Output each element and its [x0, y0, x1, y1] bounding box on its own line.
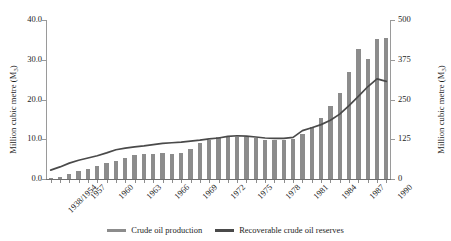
- y-axis-right-title-suffix: ): [436, 65, 446, 68]
- x-axis-labels: 1938/19541957196019631966196919721975197…: [46, 182, 391, 226]
- reserves-polyline: [51, 79, 387, 170]
- y-axis-left-title-suffix: ): [8, 65, 18, 68]
- y-axis-right-tick-label: 250: [398, 95, 438, 104]
- y-axis-left-tick: [42, 179, 46, 180]
- legend-item-recoverable-reserves: Recoverable crude oil reserves: [215, 225, 344, 235]
- y-axis-right-tick-label: 500: [398, 15, 438, 24]
- y-axis-right-tick: [391, 139, 395, 140]
- legend-swatch-bar: [107, 229, 126, 232]
- y-axis-left-tick-label: 30.0: [2, 55, 42, 64]
- x-axis-tick-label: 1984: [339, 182, 358, 201]
- chart-legend: Crude oil production Recoverable crude o…: [0, 222, 451, 238]
- x-axis-tick-label: 1978: [283, 182, 302, 201]
- y-axis-left-tick-label: 10.0: [2, 134, 42, 143]
- y-axis-left-title-sub: 3: [12, 68, 19, 71]
- y-axis-right-tick: [391, 179, 395, 180]
- plot-area: 0.010.020.030.040.00125250375500: [46, 20, 391, 179]
- y-axis-left-title: Million cubic metre (M3): [8, 50, 19, 170]
- legend-label-recoverable-reserves: Recoverable crude oil reserves: [239, 225, 344, 235]
- legend-item-crude-oil-production: Crude oil production: [107, 225, 202, 235]
- y-axis-right-title: Million cubic metre (M3): [436, 50, 447, 170]
- x-axis-tick-label: 1963: [144, 182, 163, 201]
- y-axis-right-tick: [391, 100, 395, 101]
- y-axis-left-tick-label: 20.0: [2, 95, 42, 104]
- y-axis-right-tick-label: 0: [398, 174, 438, 183]
- chart-container: Million cubic metre (M3) Million cubic m…: [0, 0, 451, 241]
- y-axis-left-tick-label: 40.0: [2, 15, 42, 24]
- x-axis-tick-label: 1987: [367, 182, 386, 201]
- x-axis-tick-label: 1966: [172, 182, 191, 201]
- y-axis-right-tick: [391, 60, 395, 61]
- legend-label-crude-oil-production: Crude oil production: [131, 225, 202, 235]
- y-axis-left-tick-label: 0.0: [2, 174, 42, 183]
- y-axis-right-tick-label: 375: [398, 55, 438, 64]
- y-axis-right-tick: [391, 20, 395, 21]
- x-axis-tick-label: 1960: [116, 182, 135, 201]
- legend-swatch-line: [215, 229, 234, 232]
- x-axis-tick-label: 1975: [255, 182, 274, 201]
- x-axis-tick-label: 1972: [227, 182, 246, 201]
- x-axis-tick-label: 1969: [199, 182, 218, 201]
- line-series-recoverable-reserves: [46, 20, 391, 179]
- x-axis-tick-label: 1981: [311, 182, 330, 201]
- x-axis-tick-label: 1990: [395, 182, 414, 201]
- y-axis-right-title-sub: 3: [440, 68, 447, 71]
- y-axis-right-tick-label: 125: [398, 134, 438, 143]
